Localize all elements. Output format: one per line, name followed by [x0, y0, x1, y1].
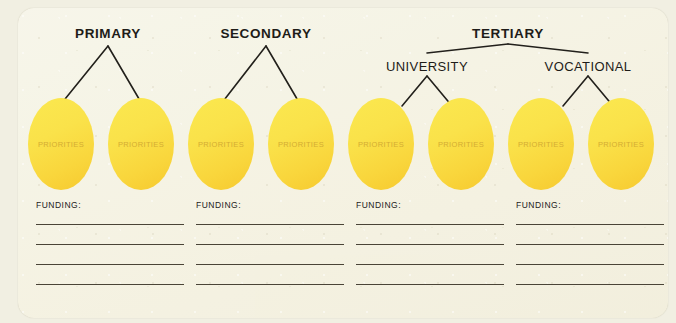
funding-write-line[interactable]: [356, 224, 504, 225]
priority-ellipse[interactable]: PRIORITIES: [508, 98, 574, 190]
funding-label: FUNDING:: [196, 200, 344, 210]
funding-write-line[interactable]: [36, 264, 184, 265]
tier-label-primary: PRIMARY: [75, 26, 141, 41]
priority-ellipse[interactable]: PRIORITIES: [108, 98, 174, 190]
funding-block: FUNDING:: [196, 200, 344, 285]
funding-write-line[interactable]: [516, 284, 664, 285]
funding-block: FUNDING:: [356, 200, 504, 285]
priority-ellipse[interactable]: PRIORITIES: [348, 98, 414, 190]
tier-label-tertiary: TERTIARY: [472, 26, 544, 41]
funding-write-line[interactable]: [36, 284, 184, 285]
priority-ellipse-label: PRIORITIES: [198, 140, 244, 149]
funding-write-line[interactable]: [36, 224, 184, 225]
priority-ellipse[interactable]: PRIORITIES: [28, 98, 94, 190]
priority-ellipse-label: PRIORITIES: [278, 140, 324, 149]
funding-write-line[interactable]: [516, 264, 664, 265]
tier-label-secondary: SECONDARY: [220, 26, 311, 41]
funding-write-line[interactable]: [196, 224, 344, 225]
priority-ellipse-label: PRIORITIES: [118, 140, 164, 149]
funding-write-line[interactable]: [36, 244, 184, 245]
funding-label: FUNDING:: [356, 200, 504, 210]
priority-ellipse-label: PRIORITIES: [438, 140, 484, 149]
funding-write-line[interactable]: [356, 244, 504, 245]
funding-write-line[interactable]: [196, 284, 344, 285]
priority-ellipse-label: PRIORITIES: [38, 140, 84, 149]
branch-label-vocational: VOCATIONAL: [545, 59, 632, 74]
funding-label: FUNDING:: [516, 200, 664, 210]
funding-write-line[interactable]: [356, 264, 504, 265]
funding-block: FUNDING:: [516, 200, 664, 285]
funding-write-line[interactable]: [516, 224, 664, 225]
branch-label-university: UNIVERSITY: [386, 59, 468, 74]
priority-ellipse-label: PRIORITIES: [518, 140, 564, 149]
funding-write-line[interactable]: [196, 244, 344, 245]
priority-ellipse[interactable]: PRIORITIES: [428, 98, 494, 190]
funding-label: FUNDING:: [36, 200, 184, 210]
funding-write-line[interactable]: [516, 244, 664, 245]
funding-write-line[interactable]: [196, 264, 344, 265]
priority-ellipse[interactable]: PRIORITIES: [268, 98, 334, 190]
priority-ellipse-label: PRIORITIES: [598, 140, 644, 149]
funding-block: FUNDING:: [36, 200, 184, 285]
priority-ellipse[interactable]: PRIORITIES: [188, 98, 254, 190]
priority-ellipse[interactable]: PRIORITIES: [588, 98, 654, 190]
worksheet-root: PRIMARYSECONDARYTERTIARY UNIVERSITYVOCAT…: [0, 0, 676, 323]
funding-write-line[interactable]: [356, 284, 504, 285]
priority-ellipse-label: PRIORITIES: [358, 140, 404, 149]
